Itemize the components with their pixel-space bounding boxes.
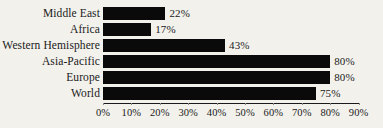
bar-value-world: 75% xyxy=(320,87,340,100)
x-axis-tick-label: 20% xyxy=(150,107,170,119)
x-axis-tick-mark xyxy=(273,103,274,105)
category-label-text: Asia-Pacific xyxy=(42,55,100,67)
bar-value-text: 22% xyxy=(169,7,189,19)
x-axis-tick-label: 60% xyxy=(264,107,284,119)
category-label-middle-east: Middle East xyxy=(43,7,100,20)
horizontal-bar-chart: Middle East Africa Western Hemisphere As… xyxy=(0,0,383,128)
x-axis-tick-mark xyxy=(302,103,303,105)
x-axis-tick-label: 0% xyxy=(96,107,110,119)
bar-value-western-hemisphere: 43% xyxy=(229,39,249,52)
bar-world xyxy=(103,87,316,100)
bar-value-text: 17% xyxy=(155,23,175,35)
bar-value-europe: 80% xyxy=(334,71,354,84)
category-label-text: Europe xyxy=(66,71,100,83)
bar-middle-east xyxy=(103,7,165,20)
bar-value-asia-pacific: 80% xyxy=(334,55,354,68)
x-axis-tick-mark xyxy=(217,103,218,105)
x-axis-tick-label: 90% xyxy=(349,107,369,119)
category-label-europe: Europe xyxy=(66,71,100,84)
category-label-text: World xyxy=(71,87,100,99)
category-label-text: Western Hemisphere xyxy=(2,39,100,51)
x-axis-tick-mark xyxy=(103,103,104,105)
x-axis-tick-label: 70% xyxy=(292,107,312,119)
bar-value-text: 80% xyxy=(334,71,354,83)
x-axis-tick-mark xyxy=(359,103,360,105)
bar-europe xyxy=(103,71,330,84)
category-label-text: Africa xyxy=(70,23,100,35)
bar-asia-pacific xyxy=(103,55,330,68)
x-axis-tick-mark xyxy=(131,103,132,105)
x-axis-tick-mark xyxy=(188,103,189,105)
category-label-text: Middle East xyxy=(43,7,100,19)
x-axis-tick-mark xyxy=(330,103,331,105)
x-axis-tick-label: 80% xyxy=(320,107,340,119)
bar-western-hemisphere xyxy=(103,39,225,52)
bar-value-text: 43% xyxy=(229,39,249,51)
bar-value-africa: 17% xyxy=(155,23,175,36)
category-label-africa: Africa xyxy=(70,23,100,36)
x-axis-line xyxy=(103,103,359,104)
category-label-asia-pacific: Asia-Pacific xyxy=(42,55,100,68)
x-axis-tick-label: 30% xyxy=(178,107,198,119)
bar-value-text: 80% xyxy=(334,55,354,67)
bar-value-middle-east: 22% xyxy=(169,7,189,20)
x-axis-tick-mark xyxy=(160,103,161,105)
category-label-world: World xyxy=(71,87,100,100)
bar-africa xyxy=(103,23,151,36)
x-axis-tick-label: 40% xyxy=(207,107,227,119)
x-axis-tick-label: 10% xyxy=(122,107,142,119)
category-label-western-hemisphere: Western Hemisphere xyxy=(2,39,100,52)
x-axis-tick-label: 50% xyxy=(235,107,255,119)
x-axis-tick-mark xyxy=(245,103,246,105)
bar-value-text: 75% xyxy=(320,87,340,99)
